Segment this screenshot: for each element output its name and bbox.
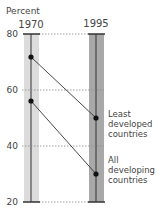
chart: Percent 1970 1995 80 60 40 20 Least deve… [0, 0, 156, 216]
y-tick-60: 60 [7, 85, 19, 95]
svg-text:developed: developed [108, 119, 152, 129]
y-tick-80: 80 [7, 29, 19, 39]
svg-text:All: All [108, 155, 119, 165]
point-least-1970 [28, 54, 33, 59]
legend-least-developed: Least developed countries [108, 109, 152, 139]
series-least-developed-line [31, 57, 96, 118]
series-all-developing-line [31, 101, 96, 174]
point-all-1970 [28, 98, 33, 103]
y-tick-20: 20 [7, 197, 19, 207]
svg-text:countries: countries [108, 175, 148, 185]
y-axis-label: Percent [6, 6, 40, 16]
svg-text:countries: countries [108, 129, 148, 139]
x-label-1970: 1970 [18, 19, 43, 30]
x-label-1995: 1995 [83, 18, 108, 29]
legend-all-developing: All developing countries [108, 155, 155, 185]
svg-text:Least: Least [108, 109, 131, 119]
svg-text:developing: developing [108, 165, 155, 175]
point-all-1995 [93, 171, 98, 176]
point-least-1995 [93, 115, 98, 120]
y-tick-40: 40 [7, 141, 19, 151]
